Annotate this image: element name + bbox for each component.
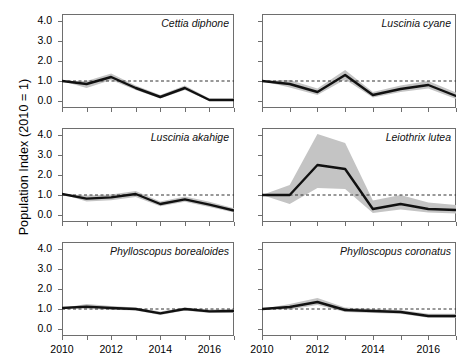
x-tick-label: 2016 [189,343,229,355]
x-tick-mark [373,108,374,112]
y-tick-label: 0.0 [26,94,52,106]
y-tick-mark [258,289,262,290]
x-tick-mark [136,222,137,226]
confidence-band [62,73,234,101]
species-label: Leiothrix lutea [386,131,451,143]
x-tick-mark [401,108,402,112]
y-tick-label: 2.0 [26,54,52,66]
x-tick-mark [160,336,161,340]
y-tick-label: 0.0 [26,322,52,334]
x-tick-label: 2010 [42,343,82,355]
panel-cettia-diphone: Cettia diphone [62,14,234,108]
confidence-band [262,134,456,213]
y-tick-mark [58,101,62,102]
y-tick-mark [258,61,262,62]
x-tick-mark [234,336,235,340]
y-tick-mark [58,155,62,156]
y-tick-mark [258,329,262,330]
x-tick-mark [111,336,112,340]
x-tick-mark [401,222,402,226]
y-tick-mark [58,195,62,196]
y-tick-mark [58,81,62,82]
y-tick-mark [258,175,262,176]
x-tick-mark [428,336,429,340]
x-tick-mark [262,108,263,112]
panel-phylloscopus-borealoides: Phylloscopus borealoides [62,242,234,336]
y-tick-mark [58,269,62,270]
x-tick-mark [317,222,318,226]
y-tick-label: 4.0 [26,128,52,140]
x-tick-mark [185,108,186,112]
y-tick-mark [58,61,62,62]
species-label: Cettia diphone [161,17,229,29]
x-tick-mark [428,222,429,226]
panel-leiothrix-lutea: Leiothrix lutea [262,128,456,222]
x-tick-mark [111,108,112,112]
small-multiples-figure: Population Index (2010 = 1) Cettia dipho… [0,0,468,361]
y-tick-mark [258,135,262,136]
confidence-band [62,191,234,213]
x-tick-mark [62,222,63,226]
x-tick-mark [345,336,346,340]
x-tick-label: 2010 [242,343,282,355]
x-tick-mark [160,222,161,226]
x-tick-mark [373,222,374,226]
y-tick-label: 0.0 [26,208,52,220]
species-label: Luscinia akahige [151,131,229,143]
x-tick-mark [428,108,429,112]
y-tick-mark [258,41,262,42]
x-tick-label: 2012 [297,343,337,355]
species-label: Luscinia cyane [382,17,451,29]
y-tick-mark [58,289,62,290]
y-tick-mark [58,135,62,136]
y-tick-mark [258,215,262,216]
x-tick-mark [209,336,210,340]
y-tick-mark [258,81,262,82]
y-tick-label: 3.0 [26,262,52,274]
x-tick-mark [290,108,291,112]
species-label: Phylloscopus borealoides [110,245,229,257]
x-tick-mark [111,222,112,226]
y-tick-label: 1.0 [26,302,52,314]
y-tick-label: 4.0 [26,14,52,26]
x-tick-mark [62,336,63,340]
x-tick-mark [401,336,402,340]
x-tick-mark [317,108,318,112]
y-tick-mark [258,155,262,156]
y-tick-mark [58,329,62,330]
x-tick-label: 2014 [353,343,393,355]
y-tick-mark [58,215,62,216]
x-tick-mark [345,108,346,112]
y-tick-label: 3.0 [26,34,52,46]
x-tick-mark [234,108,235,112]
x-tick-mark [262,336,263,340]
x-tick-mark [456,108,457,112]
panel-phylloscopus-coronatus: Phylloscopus coronatus [262,242,456,336]
x-tick-mark [456,336,457,340]
x-tick-label: 2012 [91,343,131,355]
y-tick-mark [58,175,62,176]
x-tick-mark [87,336,88,340]
x-tick-mark [160,108,161,112]
x-tick-mark [62,108,63,112]
x-tick-mark [262,222,263,226]
y-tick-mark [58,309,62,310]
y-tick-mark [258,269,262,270]
y-tick-mark [258,101,262,102]
panel-luscinia-akahige: Luscinia akahige [62,128,234,222]
y-tick-mark [58,249,62,250]
x-tick-label: 2014 [140,343,180,355]
x-tick-mark [209,108,210,112]
trend-line [262,75,456,96]
x-tick-mark [185,336,186,340]
x-tick-mark [234,222,235,226]
trend-line [62,77,234,100]
y-tick-label: 2.0 [26,282,52,294]
x-tick-mark [136,108,137,112]
x-tick-mark [136,336,137,340]
y-tick-mark [258,309,262,310]
x-tick-mark [317,336,318,340]
y-tick-label: 2.0 [26,168,52,180]
y-tick-label: 1.0 [26,74,52,86]
panel-luscinia-cyane: Luscinia cyane [262,14,456,108]
